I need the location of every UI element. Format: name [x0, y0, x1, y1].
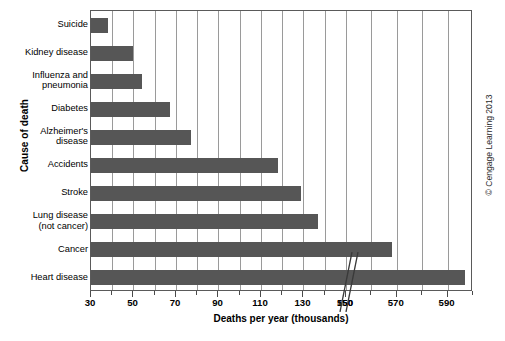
bar [91, 102, 170, 117]
category-label-line: Suicide [58, 19, 89, 29]
x-axis-title: Deaths per year (thousands) [90, 313, 472, 324]
tick-minor [324, 291, 325, 295]
category-label-line: Heart disease [31, 272, 88, 282]
bar [91, 46, 133, 61]
bar [91, 270, 465, 285]
tick-minor [111, 291, 112, 295]
category-label: Stroke [6, 187, 88, 198]
category-label-line: Cancer [58, 244, 88, 254]
category-label: Heart disease [6, 272, 88, 283]
category-label-line: disease [56, 136, 88, 146]
tick-minor [370, 291, 371, 295]
category-label-group: SuicideKidney diseaseInfluenza andpneumo… [6, 10, 88, 291]
category-label-line: Influenza and [32, 70, 88, 80]
bar [91, 242, 392, 257]
category-label-line: Diabetes [51, 103, 88, 113]
tick-minor [239, 291, 240, 295]
tick-minor [421, 291, 422, 295]
category-label-line: Accidents [48, 159, 88, 169]
category-label: Accidents [6, 159, 88, 170]
tick-label: 50 [127, 297, 138, 308]
tick-label: 130 [294, 297, 310, 308]
tick-minor [472, 291, 473, 295]
bar-chart-figure: Cause of death SuicideKidney diseaseInfl… [0, 0, 505, 341]
category-label-line: Kidney disease [25, 47, 88, 57]
tick-label: 590 [439, 297, 455, 308]
bar [91, 74, 142, 89]
bar [91, 18, 108, 33]
bar [91, 130, 191, 145]
tick-label: 570 [388, 297, 404, 308]
tick-minor [154, 291, 155, 295]
copyright-credit: © Cengage Learning 2013 [484, 65, 494, 225]
bar [91, 214, 318, 229]
category-label: Influenza andpneumonia [6, 70, 88, 91]
category-label: Diabetes [6, 103, 88, 114]
tick-label: 90 [212, 297, 223, 308]
tick-label: 110 [252, 297, 267, 308]
category-label: Cancer [6, 244, 88, 255]
category-label: Suicide [6, 19, 88, 30]
category-label-line: pneumonia [42, 80, 88, 90]
x-axis-tick-labels: 30507090110130150550570590 [90, 297, 472, 311]
plot-area [90, 10, 472, 291]
category-label: Alzheimer'sdisease [6, 126, 88, 147]
category-label: Lung disease(not cancer) [6, 210, 88, 231]
category-label-line: (not cancer) [38, 221, 88, 231]
category-label-line: Alzheimer's [40, 126, 88, 136]
bar [91, 186, 301, 201]
tick-minor [196, 291, 197, 295]
tick-label: 30 [85, 297, 96, 308]
tick-label: 70 [170, 297, 181, 308]
gridline [397, 11, 398, 290]
bar [91, 158, 278, 173]
category-label-line: Stroke [61, 187, 88, 197]
gridline [448, 11, 449, 290]
gridline [422, 11, 423, 290]
tick-label: 550 [337, 297, 353, 308]
tick-minor [281, 291, 282, 295]
category-label-line: Lung disease [33, 210, 88, 220]
category-label: Kidney disease [6, 47, 88, 58]
